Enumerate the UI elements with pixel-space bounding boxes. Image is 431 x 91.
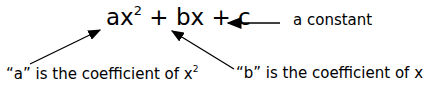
a-exponent: 2 [134, 3, 142, 18]
arrow-to-a [30, 30, 100, 64]
b-coefficient-label: “b” is the coefficient of x [236, 64, 423, 82]
a-coefficient-label: “a” is the coefficient of x2 [6, 64, 198, 83]
c-term: c [238, 4, 251, 30]
quadratic-expression: ax2 + bx + c [106, 3, 251, 30]
b-term: bx [176, 4, 204, 30]
constant-label: a constant [293, 11, 372, 29]
a-term: ax [106, 4, 134, 30]
